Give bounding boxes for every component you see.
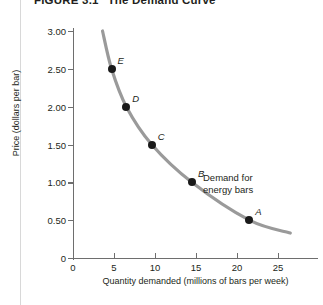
x-axis-tick <box>114 253 115 259</box>
y-axis-tick <box>68 258 74 259</box>
figure-number: FIGURE 3.1 <box>34 0 99 6</box>
x-axis-tick-label: 20 <box>232 262 243 273</box>
y-axis-tick <box>68 145 74 146</box>
y-axis-tick <box>68 107 74 108</box>
y-axis-tick-label: 1.50 <box>26 139 66 150</box>
figure-page: FIGURE 3.1The Demand Curve 00.501.001.50… <box>0 0 323 305</box>
data-point-e <box>108 65 116 73</box>
x-axis-tick-label: 15 <box>191 262 202 273</box>
y-axis-tick-label: 3.00 <box>26 26 66 37</box>
x-axis-tick-label: 25 <box>273 262 284 273</box>
y-axis-title: Price (dollars per bar) <box>11 53 21 173</box>
curve-annotation-line-2: energy bars <box>203 184 253 196</box>
y-axis-tick <box>68 69 74 70</box>
data-point-b <box>188 178 196 186</box>
y-axis-tick-label: 1.00 <box>26 177 66 188</box>
x-axis-tick <box>196 253 197 259</box>
y-axis-tick-label: 0.50 <box>26 215 66 226</box>
data-point-a <box>245 216 253 224</box>
y-axis-tick <box>68 31 74 32</box>
x-axis-tick <box>155 253 156 259</box>
x-axis-tick <box>278 253 279 259</box>
x-axis-tick-label: 0 <box>70 262 75 273</box>
x-axis-tick-label: 5 <box>111 262 116 273</box>
data-point-label-c: C <box>158 131 165 142</box>
data-point-label-d: D <box>132 93 139 104</box>
curve-annotation: Demand for energy bars <box>203 172 253 196</box>
y-axis-tick-label: 0 <box>26 253 66 264</box>
figure-title-text: The Demand Curve <box>108 0 216 6</box>
curve-annotation-line-1: Demand for <box>203 172 253 184</box>
figure-title: FIGURE 3.1The Demand Curve <box>34 0 216 6</box>
y-axis-tick <box>68 220 74 221</box>
data-point-c <box>148 141 156 149</box>
x-axis-tick-label: 10 <box>150 262 161 273</box>
data-point-label-a: A <box>255 206 261 217</box>
x-axis-tick <box>237 253 238 259</box>
y-axis-tick-label: 2.50 <box>26 63 66 74</box>
data-point-label-e: E <box>118 55 124 66</box>
data-point-d <box>122 103 130 111</box>
y-axis-tick-label: 2.00 <box>26 101 66 112</box>
y-axis-tick <box>68 182 74 183</box>
x-axis-title: Quantity demanded (millions of bars per … <box>73 276 318 286</box>
